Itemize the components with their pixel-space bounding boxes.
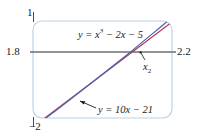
axis-label-xmin: 1.8 (6, 45, 20, 57)
axis-label-ymin: −2 (29, 120, 41, 132)
axis-midpoint-dot (102, 51, 103, 52)
line-equation-text: y = 10x − 21 (98, 104, 153, 115)
root-label-subscript: 2 (148, 67, 152, 75)
cubic-equation-suffix: − 2x − 5 (103, 29, 143, 40)
axis-label-xmax: 2.2 (177, 45, 191, 57)
line-equation-label: y = 10x − 21 (98, 104, 153, 115)
root-label: x2 (143, 61, 151, 75)
axis-label-top-left: 1 (27, 6, 33, 18)
figure-container: 1 1.8 2.2 −2 y = x3 − 2x − 5 y = 10x − 2… (0, 0, 204, 137)
plot-canvas (0, 0, 204, 137)
cubic-equation-prefix: y = x (78, 29, 100, 40)
cubic-equation-label: y = x3 − 2x − 5 (78, 27, 143, 40)
